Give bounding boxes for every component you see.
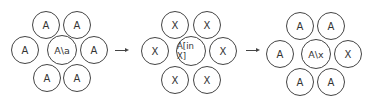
neighbor-circle-top-right: A xyxy=(63,11,91,39)
neighbor-circle-right: X xyxy=(209,37,237,65)
neighbor-circle-bottom-left: A xyxy=(33,64,61,92)
neighbor-circle-left: A xyxy=(11,36,39,64)
neighbor-circle-bottom-right: A xyxy=(317,68,345,96)
neighbor-circle-top-left: A xyxy=(286,12,314,40)
neighbor-circle-bottom-right: A xyxy=(63,64,91,92)
cluster-initial: A A A A\a A A A xyxy=(0,0,125,103)
cluster-final: A A A A\x X A A xyxy=(249,0,374,103)
neighbor-circle-right: X xyxy=(334,40,362,68)
neighbor-circle-top-left: X xyxy=(161,11,189,39)
center-circle: A[in X] xyxy=(176,36,206,66)
center-circle: A\x xyxy=(301,39,331,69)
neighbor-circle-bottom-left: X xyxy=(161,66,189,94)
center-circle: A\a xyxy=(47,35,77,65)
cluster-intermediate: X X X A[in X] X X X xyxy=(125,0,250,103)
neighbor-circle-top-right: X xyxy=(193,11,221,39)
neighbor-circle-top-right: A xyxy=(317,12,345,40)
neighbor-circle-left: A xyxy=(266,40,294,68)
neighbor-circle-bottom-right: X xyxy=(193,66,221,94)
neighbor-circle-top-left: A xyxy=(32,11,60,39)
neighbor-circle-bottom-left: A xyxy=(286,68,314,96)
neighbor-circle-left: X xyxy=(141,37,169,65)
neighbor-circle-right: A xyxy=(80,36,108,64)
